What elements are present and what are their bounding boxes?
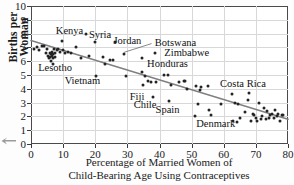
data-point [184, 79, 187, 82]
scatter-plot-figure: Births per Woman 01020304050607080012345… [0, 0, 294, 185]
data-point [84, 32, 87, 35]
data-point [230, 93, 233, 96]
x-axis-title: Percentage of Married Women of Child-Bea… [30, 156, 288, 181]
left-edge-arrow-artifact [1, 136, 17, 146]
data-point [266, 109, 269, 112]
data-point [197, 102, 200, 105]
data-point [124, 75, 127, 78]
data-point [270, 112, 273, 115]
data-point [177, 80, 180, 83]
data-point [243, 111, 246, 114]
annotation-zimbabwe: Zimbabwe [164, 48, 209, 59]
data-point [267, 116, 270, 119]
data-point [195, 85, 198, 88]
data-point [140, 71, 143, 74]
y-axis-title: Births per Woman [8, 0, 30, 83]
data-point [248, 91, 251, 94]
data-point [206, 85, 209, 88]
data-point [258, 101, 261, 104]
y-axis-tick-label: 8 [21, 28, 27, 39]
data-point [259, 118, 262, 121]
data-point [46, 47, 49, 50]
annotation-chile: Chile [134, 99, 157, 110]
data-point [238, 116, 241, 119]
data-point [185, 87, 188, 90]
data-point [150, 80, 153, 83]
cropped-top-title [0, 0, 294, 5]
data-point [209, 114, 212, 117]
data-point [166, 74, 169, 77]
y-axis-tick [27, 144, 31, 145]
plot-area: 01020304050607080012345678910 KenyaSyria… [31, 6, 288, 144]
y-axis-tick-label: 2 [21, 111, 27, 122]
y-axis-tick-label: 7 [21, 42, 27, 53]
data-point [235, 120, 238, 123]
annotation-honduras: Honduras [147, 59, 188, 70]
annotation-syria: Syria [89, 30, 111, 41]
data-point [102, 56, 105, 59]
annotation-costa-rica: Costa Rica [220, 79, 266, 90]
annotation-denmark: Denmark [196, 119, 235, 130]
data-point [219, 102, 222, 105]
data-point [200, 86, 203, 89]
y-axis-tick-label: 6 [21, 56, 27, 67]
data-point [111, 58, 114, 61]
data-point [140, 57, 143, 60]
y-axis-tick-label: 4 [21, 83, 27, 94]
x-axis-title-line2: Child-Bearing Age Using Contraceptives [30, 169, 288, 182]
data-point [246, 98, 249, 101]
data-point [38, 49, 41, 52]
data-point [169, 83, 172, 86]
data-point [74, 46, 77, 49]
data-point [144, 75, 147, 78]
data-point [94, 40, 97, 43]
data-point [54, 51, 57, 54]
data-point [60, 39, 63, 42]
annotation-spain: Spain [156, 105, 180, 116]
data-point [278, 119, 281, 122]
annotation-vietnam: Vietnam [65, 75, 101, 86]
data-point [103, 62, 106, 65]
annotation-kenya: Kenya [56, 26, 83, 37]
x-axis-title-line1: Percentage of Married Women of [30, 156, 288, 169]
data-point [274, 108, 277, 111]
y-axis-tick-label: 1 [21, 125, 27, 136]
data-point [275, 115, 278, 118]
data-point [53, 56, 56, 59]
data-point [198, 89, 201, 92]
y-axis-tick-label: 10 [15, 1, 26, 12]
data-point [123, 53, 126, 56]
data-point [250, 119, 253, 122]
data-point [87, 54, 90, 57]
data-point [79, 57, 82, 60]
data-point [155, 80, 158, 83]
y-axis-tick-label: 5 [21, 70, 27, 81]
data-point [237, 102, 240, 105]
annotation-lesotho: Lesotho [38, 63, 72, 74]
data-point [142, 83, 145, 86]
data-point [208, 108, 211, 111]
data-point [153, 51, 156, 54]
y-axis-tick-label: 9 [21, 14, 27, 25]
annotation-jordan: Jordan [113, 35, 141, 46]
data-point [282, 114, 285, 117]
y-axis-tick-label: 3 [21, 97, 27, 108]
data-point [70, 51, 73, 54]
data-point [168, 100, 171, 103]
y-axis-tick-label: 0 [21, 139, 27, 150]
